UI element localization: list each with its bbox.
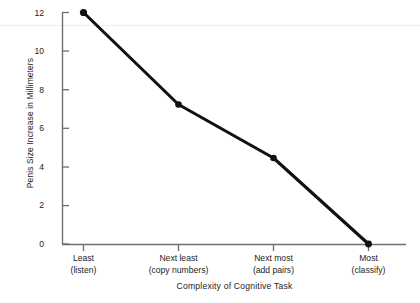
x-tick-label-most: Most (classify) xyxy=(309,252,420,276)
x-axis-ticks xyxy=(84,245,369,252)
x-tick-label-line1: Next most xyxy=(254,253,293,263)
data-point xyxy=(365,241,372,248)
y-axis-ticks xyxy=(63,13,70,245)
x-tick-label-line1: Least xyxy=(73,253,94,263)
x-tick-label-line1: Most xyxy=(359,253,378,263)
data-point xyxy=(175,101,182,108)
chart-figure: Penis Size Increase in Millimeters 12 10… xyxy=(0,0,420,303)
x-axis-title: Complexity of Cognitive Task xyxy=(62,281,407,291)
data-point-markers xyxy=(80,9,372,248)
data-point xyxy=(80,9,87,16)
x-tick-label-line1: Next least xyxy=(159,253,197,263)
data-point xyxy=(270,155,277,162)
x-tick-label-line2: (classify) xyxy=(309,264,420,276)
data-line-series xyxy=(84,13,369,245)
